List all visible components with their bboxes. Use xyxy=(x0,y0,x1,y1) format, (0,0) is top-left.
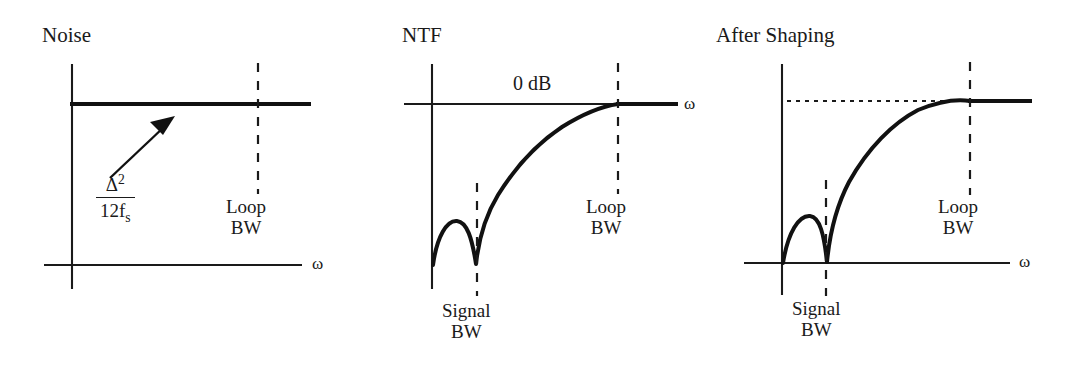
shaped-noise-curve xyxy=(783,100,970,263)
noise-shaping-figure: Noise Δ2 12fs Loop BW ω NTF 0 xyxy=(0,0,1084,389)
shaped-omega-label: ω xyxy=(1019,252,1030,271)
panel-after-shaping-graphics xyxy=(0,0,1084,389)
shaped-loop-bw-label: Loop BW xyxy=(938,196,978,239)
shaped-signal-bw-label: Signal BW xyxy=(792,298,841,341)
